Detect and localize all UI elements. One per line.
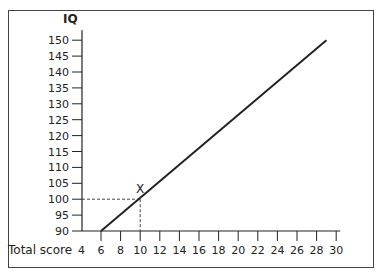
x-tick-label: 4 [78, 244, 85, 257]
x-tick-label: 24 [270, 244, 284, 257]
x-tick-label: 14 [172, 244, 186, 257]
y-axis-title: IQ [63, 12, 78, 26]
y-tick-label: 130 [48, 98, 69, 111]
y-tick-label: 105 [48, 177, 69, 190]
y-tick-label: 110 [48, 161, 69, 174]
x-tick-label: 10 [133, 244, 147, 257]
y-tick-label: 95 [55, 209, 69, 222]
x-tick-label: 30 [329, 244, 343, 257]
series-line [101, 40, 326, 231]
x-axis-title: Total score [7, 243, 72, 257]
x-tick-label: 28 [310, 244, 324, 257]
x-tick-label: 8 [117, 244, 124, 257]
y-tick-label: 145 [48, 50, 69, 63]
iq-conversion-chart: IQ 9095100105110115120125130135140145150… [0, 0, 382, 278]
y-tick-label: 115 [48, 146, 69, 159]
y-axis: 9095100105110115120125130135140145150 [48, 30, 82, 238]
y-tick-label: 120 [48, 130, 69, 143]
x-tick-label: 22 [251, 244, 265, 257]
point-marker-x: X [136, 182, 144, 196]
y-tick-label: 100 [48, 193, 69, 206]
x-tick-label: 16 [192, 244, 206, 257]
y-tick-label: 135 [48, 82, 69, 95]
data-series [101, 40, 326, 231]
y-tick-label: 140 [48, 66, 69, 79]
y-tick-label: 150 [48, 34, 69, 47]
x-tick-label: 26 [290, 244, 304, 257]
x-axis: 4681012141618202224262830 [78, 231, 343, 257]
x-tick-label: 6 [98, 244, 105, 257]
y-tick-label: 90 [55, 225, 69, 238]
x-tick-label: 12 [153, 244, 167, 257]
x-tick-label: 20 [231, 244, 245, 257]
x-tick-label: 18 [212, 244, 226, 257]
y-tick-label: 125 [48, 114, 69, 127]
